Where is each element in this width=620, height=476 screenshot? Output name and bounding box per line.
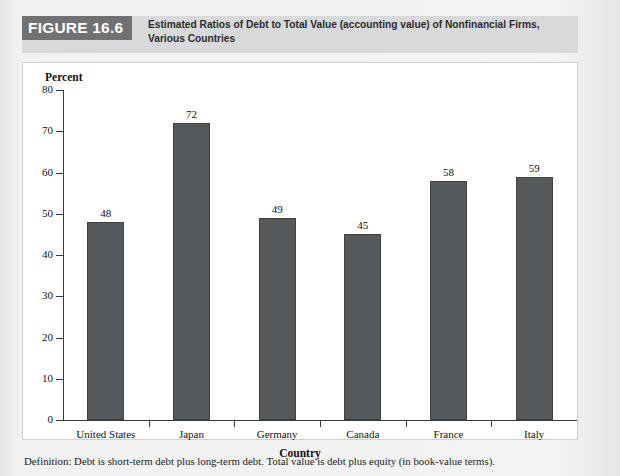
x-category-label: Canada bbox=[320, 429, 406, 440]
x-category-label: Japan bbox=[149, 429, 235, 440]
y-tick-mark bbox=[56, 173, 63, 174]
y-tick-label: 50 bbox=[29, 208, 53, 219]
bar-value-label: 49 bbox=[257, 204, 297, 215]
y-tick-mark bbox=[56, 131, 63, 132]
y-tick-label: 80 bbox=[29, 84, 53, 95]
y-tick-mark bbox=[56, 420, 63, 421]
bar bbox=[344, 234, 381, 420]
x-tick-mark bbox=[406, 421, 407, 427]
y-tick-mark bbox=[56, 90, 63, 91]
figure-caption: Estimated Ratios of Debt to Total Value … bbox=[132, 16, 578, 45]
bar-value-label: 45 bbox=[343, 220, 383, 231]
y-tick-label: 20 bbox=[29, 332, 53, 343]
bar-value-label: 48 bbox=[86, 208, 126, 219]
bar bbox=[259, 218, 296, 420]
bar bbox=[173, 123, 210, 420]
y-tick-label-wrap: 10 bbox=[23, 379, 53, 380]
y-tick-mark bbox=[56, 338, 63, 339]
bar-value-label: 59 bbox=[514, 163, 554, 174]
bar-value-label: 72 bbox=[172, 109, 212, 120]
x-category-label: United States bbox=[63, 429, 149, 440]
y-tick-label-wrap: 30 bbox=[23, 296, 53, 297]
y-tick-label: 60 bbox=[29, 167, 53, 178]
y-tick-label-wrap: 40 bbox=[23, 255, 53, 256]
figure-header: FIGURE 16.6 Estimated Ratios of Debt to … bbox=[22, 16, 578, 53]
x-tick-mark bbox=[320, 421, 321, 427]
figure-number-badge: FIGURE 16.6 bbox=[22, 16, 132, 40]
chart-panel: Percent 01020304050607080 487249455859 U… bbox=[22, 62, 578, 440]
bar bbox=[430, 181, 467, 420]
figure-caption-line-1: Estimated Ratios of Debt to Total Value … bbox=[148, 19, 540, 30]
y-tick-label-wrap: 70 bbox=[23, 131, 53, 132]
y-tick-mark bbox=[56, 296, 63, 297]
plot-area: Percent 01020304050607080 487249455859 U… bbox=[23, 63, 577, 439]
x-category-label: France bbox=[406, 429, 492, 440]
y-tick-label-wrap: 50 bbox=[23, 214, 53, 215]
bar bbox=[87, 222, 124, 420]
y-tick-label: 70 bbox=[29, 125, 53, 136]
x-category-label: Germany bbox=[234, 429, 320, 440]
y-tick-label: 10 bbox=[29, 373, 53, 384]
y-tick-label: 40 bbox=[29, 249, 53, 260]
y-tick-label-wrap: 60 bbox=[23, 173, 53, 174]
y-tick-mark bbox=[56, 214, 63, 215]
x-tick-mark bbox=[491, 421, 492, 427]
y-tick-label-wrap: 0 bbox=[23, 420, 53, 421]
bar-value-label: 58 bbox=[429, 167, 469, 178]
x-tick-mark bbox=[234, 421, 235, 427]
y-axis-line bbox=[63, 90, 64, 421]
bar bbox=[516, 177, 553, 420]
y-tick-label-wrap: 20 bbox=[23, 338, 53, 339]
y-tick-label: 30 bbox=[29, 290, 53, 301]
y-tick-label: 0 bbox=[29, 414, 53, 425]
figure-caption-line-2: Various Countries bbox=[148, 32, 578, 46]
y-tick-mark bbox=[56, 379, 63, 380]
y-tick-mark bbox=[56, 255, 63, 256]
y-tick-label-wrap: 80 bbox=[23, 90, 53, 91]
figure-footnote: Definition: Debt is short-term debt plus… bbox=[24, 455, 495, 467]
y-axis-title: Percent bbox=[45, 71, 82, 83]
x-category-label: Italy bbox=[491, 429, 577, 440]
x-tick-mark bbox=[149, 421, 150, 427]
